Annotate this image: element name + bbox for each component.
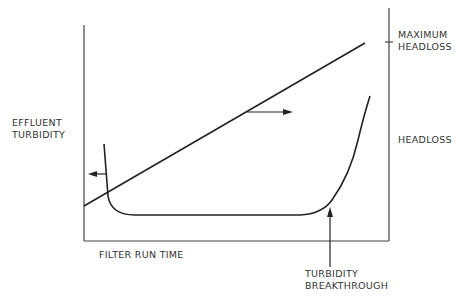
breakthrough-label: TURBIDITY BREAKTHROUGH: [305, 268, 388, 292]
breakthrough-arrowhead-icon: [327, 207, 333, 217]
right-axis-label: HEADLOSS: [398, 134, 452, 146]
x-axis-label: FILTER RUN TIME: [99, 249, 184, 261]
turbidity-curve: [104, 96, 370, 215]
label-turbidity: TURBIDITY: [12, 129, 65, 141]
label-maximum: MAXIMUM: [398, 29, 452, 41]
max-headloss-label: MAXIMUM HEADLOSS: [398, 29, 452, 53]
label-effluent: EFFLUENT: [12, 117, 65, 129]
headloss-line: [84, 43, 365, 206]
right-arrowhead-icon: [283, 109, 293, 115]
label-max-headloss: HEADLOSS: [398, 41, 452, 53]
filter-run-diagram: [0, 0, 458, 301]
left-axis-label: EFFLUENT TURBIDITY: [12, 117, 65, 141]
left-arrowhead-icon: [88, 171, 97, 177]
label-breakthrough-turbidity: TURBIDITY: [305, 268, 388, 280]
label-breakthrough: BREAKTHROUGH: [305, 280, 388, 292]
